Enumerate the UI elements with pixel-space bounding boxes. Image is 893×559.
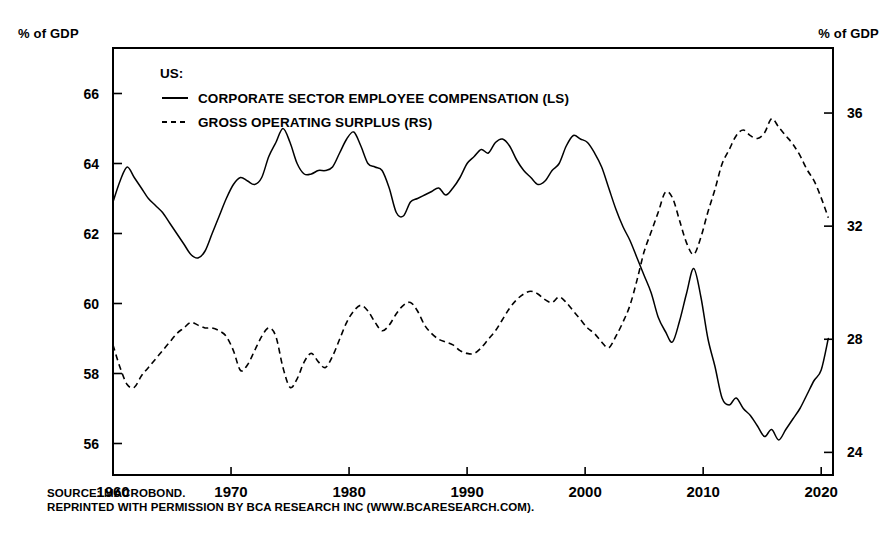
chart-legend: US:CORPORATE SECTOR EMPLOYEE COMPENSATIO…: [160, 66, 569, 130]
left-axis-ticks: 565860626466: [83, 86, 122, 452]
x-tick-label: 1990: [450, 483, 483, 500]
right-tick-label: 24: [847, 444, 863, 460]
left-tick-label: 58: [83, 366, 99, 382]
left-tick-label: 66: [83, 86, 99, 102]
right-tick-label: 36: [847, 105, 863, 121]
legend-title: US:: [160, 66, 183, 81]
legend-item-label: GROSS OPERATING SURPLUS (RS): [198, 115, 432, 130]
x-axis-ticks: 1960197019801990200020102020: [96, 467, 838, 500]
right-tick-label: 32: [847, 218, 863, 234]
left-tick-label: 62: [83, 226, 99, 242]
chart-plot: 565860626466 24283236 196019701980199020…: [0, 0, 893, 559]
left-tick-label: 56: [83, 436, 99, 452]
left-tick-label: 60: [83, 296, 99, 312]
series-line-employee-compensation: [113, 129, 828, 441]
x-tick-label: 2000: [568, 483, 601, 500]
plot-frame: [113, 48, 833, 475]
source-note: SOURCE: MACROBOND.: [47, 487, 186, 499]
x-tick-label: 1980: [332, 483, 365, 500]
x-tick-label: 2010: [686, 483, 719, 500]
left-tick-label: 64: [83, 156, 99, 172]
chart-root: % of GDP % of GDP 565860626466 24283236 …: [0, 0, 893, 559]
x-tick-label: 2020: [805, 483, 838, 500]
right-axis-ticks: 24283236: [824, 105, 863, 460]
legend-item-label: CORPORATE SECTOR EMPLOYEE COMPENSATION (…: [198, 91, 569, 106]
x-tick-label: 1970: [214, 483, 247, 500]
right-tick-label: 28: [847, 331, 863, 347]
data-series-group: [113, 119, 828, 440]
permission-note: REPRINTED WITH PERMISSION BY BCA RESEARC…: [47, 501, 534, 513]
